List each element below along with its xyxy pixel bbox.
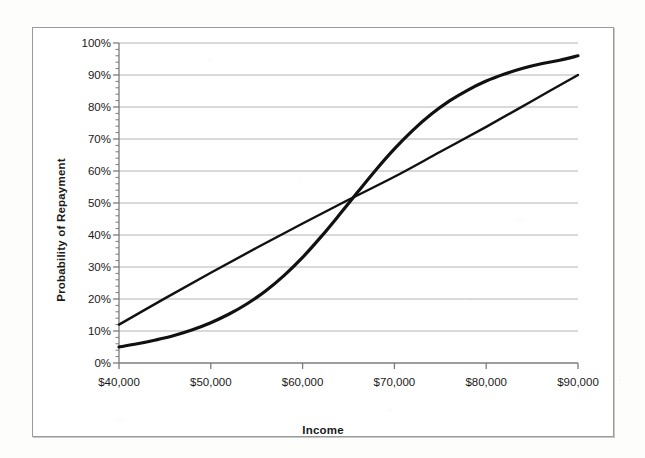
chart-frame: 0%10%20%30%40%50%60%70%80%90%100% $40,00… — [32, 27, 614, 437]
x-tick-label: $70,000 — [374, 376, 416, 388]
chart-plot-area — [33, 28, 613, 436]
y-tick-label: 90% — [47, 69, 111, 81]
x-axis-title: Income — [33, 424, 613, 436]
x-tick-label: $60,000 — [282, 376, 324, 388]
series-line-logistic-curve — [119, 56, 578, 347]
y-tick-label: 80% — [47, 101, 111, 113]
chart-page: 0%10%20%30%40%50%60%70%80%90%100% $40,00… — [0, 0, 645, 458]
x-tick-label: $50,000 — [190, 376, 232, 388]
y-axis-title: Probability of Repayment — [55, 140, 67, 320]
y-tick-label: 100% — [47, 37, 111, 49]
x-tick-label: $40,000 — [98, 376, 140, 388]
x-tick-label: $80,000 — [465, 376, 507, 388]
y-tick-label: 10% — [47, 325, 111, 337]
series-line-straight-line — [119, 75, 578, 325]
x-tick-label: $90,000 — [557, 376, 599, 388]
y-tick-label: 0% — [47, 357, 111, 369]
